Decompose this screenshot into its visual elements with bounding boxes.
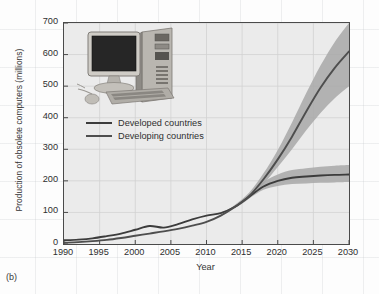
chart-legend: Developed countries Developing countries xyxy=(86,116,246,142)
x-axis-title: Year xyxy=(63,262,348,272)
y-axis-tick-0: 0 xyxy=(30,238,58,247)
x-axis-tick-1990: 1990 xyxy=(43,247,83,257)
legend-line-swatch-developing xyxy=(86,135,112,137)
legend-line-swatch-developed xyxy=(86,122,112,124)
series-line-developed xyxy=(64,175,349,241)
x-axis-tick-2030: 2030 xyxy=(328,247,368,257)
figure-caption: (b) xyxy=(6,272,17,282)
figure-panel: Production of obsolete computers (millio… xyxy=(0,0,379,294)
y-axis-tick-200: 200 xyxy=(30,175,58,184)
x-axis-tick-2005: 2005 xyxy=(150,247,190,257)
y-axis-tick-700: 700 xyxy=(30,17,58,26)
y-axis-tick-100: 100 xyxy=(30,206,58,215)
x-axis-tick-2020: 2020 xyxy=(257,247,297,257)
legend-item-developing: Developing countries xyxy=(86,129,246,142)
legend-label-developed: Developed countries xyxy=(118,118,202,128)
y-axis-tick-300: 300 xyxy=(30,143,58,152)
x-axis-tick-1995: 1995 xyxy=(79,247,119,257)
x-axis-tick-2010: 2010 xyxy=(186,247,226,257)
y-axis-tick-600: 600 xyxy=(30,49,58,58)
x-axis-tick-2015: 2015 xyxy=(221,247,261,257)
desktop-computer-image xyxy=(76,26,186,118)
y-axis-tick-500: 500 xyxy=(30,80,58,89)
plot-area: Developed countries Developing countries xyxy=(63,22,350,245)
x-axis-tick-2000: 2000 xyxy=(114,247,154,257)
y-axis-title: Production of obsolete computers (millio… xyxy=(14,15,24,245)
y-axis-tick-400: 400 xyxy=(30,112,58,121)
legend-item-developed: Developed countries xyxy=(86,116,246,129)
x-axis-tick-2025: 2025 xyxy=(292,247,332,257)
legend-label-developing: Developing countries xyxy=(118,131,204,141)
